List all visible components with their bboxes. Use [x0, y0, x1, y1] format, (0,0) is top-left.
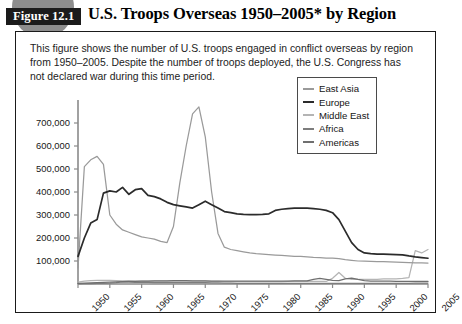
legend-swatch-americas — [303, 141, 314, 143]
x-axis-tick-label: 2005 — [439, 291, 462, 314]
legend-item: Middle East — [303, 109, 369, 122]
y-axis-tick-label: 600,000 — [20, 140, 70, 151]
chart-legend: East Asia Europe Middle East Africa Amer… — [297, 77, 377, 154]
y-axis-tick-label: 400,000 — [20, 186, 70, 197]
figure-title: U.S. Troops Overseas 1950–2005* by Regio… — [88, 4, 396, 24]
legend-label-americas: Americas — [319, 137, 359, 148]
figure-number-badge: Figure 12.1 — [6, 8, 81, 25]
figure-number-label: Figure 12.1 — [13, 9, 74, 24]
y-axis-tick-label: 300,000 — [20, 209, 70, 220]
legend-item: Africa — [303, 122, 369, 135]
y-axis-tick-label: 700,000 — [20, 117, 70, 128]
legend-label-africa: Africa — [319, 123, 344, 134]
legend-label-europe: Europe — [319, 97, 350, 108]
y-axis-tick-label: 500,000 — [20, 163, 70, 174]
legend-item: East Asia — [303, 82, 369, 95]
legend-label-east-asia: East Asia — [319, 83, 359, 94]
legend-item: Europe — [303, 95, 369, 108]
legend-swatch-middle-east — [303, 114, 314, 116]
y-axis-tick-label: 200,000 — [20, 232, 70, 243]
legend-label-middle-east: Middle East — [319, 110, 369, 121]
legend-item: Americas — [303, 136, 369, 149]
figure-body: This figure shows the number of U.S. tro… — [15, 31, 436, 313]
y-axis-tick-label: 100,000 — [20, 255, 70, 266]
legend-swatch-europe — [303, 101, 314, 103]
legend-swatch-east-asia — [303, 88, 314, 90]
legend-swatch-africa — [303, 128, 314, 130]
